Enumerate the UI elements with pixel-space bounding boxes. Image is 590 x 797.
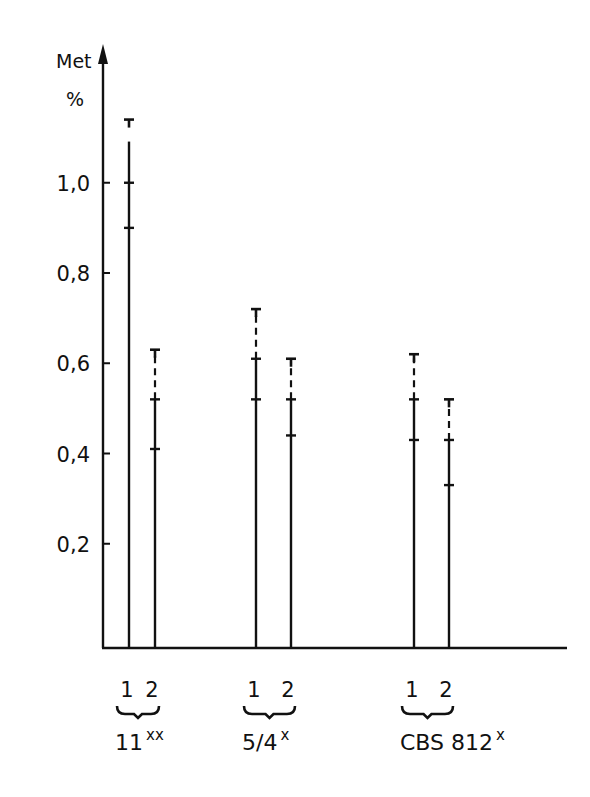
group-superscript: x: [280, 726, 289, 744]
bars: [124, 120, 454, 648]
range-bar: [251, 309, 261, 648]
y-tick-label: 0,2: [57, 533, 90, 557]
y-tick-label: 0,6: [57, 352, 90, 376]
bar-sublabel-1: 1: [247, 678, 260, 702]
y-axis-arrow-icon: [98, 44, 108, 64]
group-name: 5/4x: [242, 726, 289, 755]
x-group-labels: 1211xx125/4x12CBS 812x: [115, 678, 505, 755]
group-superscript: x: [496, 726, 505, 744]
y-tick-label: 0,4: [57, 443, 90, 467]
y-axis: [98, 44, 108, 648]
group-name: 11xx: [115, 726, 164, 755]
x-group-label: 1211xx: [115, 678, 164, 755]
x-group-label: 125/4x: [242, 678, 295, 755]
brace-icon: [244, 706, 295, 718]
x-group-label: 12CBS 812x: [400, 678, 505, 755]
group-name: CBS 812x: [400, 726, 505, 755]
y-axis-label-bottom: %: [66, 88, 84, 110]
range-bar: [286, 359, 296, 648]
bar-sublabel-2: 2: [439, 678, 452, 702]
bar-sublabel-2: 2: [145, 678, 158, 702]
range-bar: [150, 350, 160, 648]
y-tick-label: 0,8: [57, 262, 90, 286]
bar-sublabel-1: 1: [120, 678, 133, 702]
y-axis-label-top: Met: [56, 50, 92, 72]
range-bar: [409, 354, 419, 648]
brace-icon: [117, 706, 159, 718]
y-tick-label: 1,0: [57, 172, 90, 196]
bar-sublabel-1: 1: [405, 678, 418, 702]
chart: Met % 0,20,40,60,81,0 1211xx125/4x12CBS …: [0, 0, 590, 797]
range-bar: [444, 399, 454, 648]
bar-sublabel-2: 2: [281, 678, 294, 702]
brace-icon: [402, 706, 453, 718]
group-superscript: xx: [146, 726, 164, 744]
range-bar: [124, 120, 134, 648]
